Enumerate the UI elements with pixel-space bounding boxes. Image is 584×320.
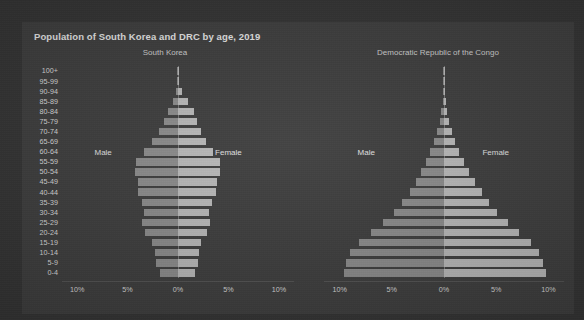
x-axis-line-right: [324, 281, 564, 282]
bar-female-10-14: [178, 249, 199, 256]
x-axis-tick: 0%: [173, 285, 183, 294]
bar-male-75-79: [164, 118, 178, 125]
bar-male-0-4: [160, 269, 178, 276]
bar-female-70-74: [444, 128, 452, 135]
bar-female-30-34: [444, 209, 497, 216]
x-axis-line-left: [62, 281, 294, 282]
bar-female-95-99: [444, 77, 445, 84]
bar-female-65-69: [178, 138, 206, 145]
x-axis-tick: 5%: [491, 285, 501, 294]
age-band-label: 0-4: [48, 269, 58, 276]
bar-female-30-34: [178, 209, 209, 216]
age-band-label: 35-39: [40, 199, 58, 206]
page-title: Population of South Korea and DRC by age…: [34, 31, 260, 42]
bar-female-15-19: [444, 239, 531, 246]
bar-female-20-24: [444, 229, 519, 236]
bar-male-45-49: [416, 178, 444, 185]
bar-male-55-59: [136, 158, 178, 165]
x-axis-tick: 5%: [387, 285, 397, 294]
bar-male-20-24: [371, 229, 444, 236]
bar-male-35-39: [402, 199, 444, 206]
bar-male-10-14: [350, 249, 444, 256]
bar-male-20-24: [145, 229, 178, 236]
x-axis-tick: 0%: [439, 285, 449, 294]
bar-male-80-84: [168, 108, 178, 115]
bar-female-75-79: [444, 118, 449, 125]
bar-female-75-79: [178, 118, 197, 125]
age-band-label: 65-69: [40, 138, 58, 145]
bar-female-95-99: [178, 77, 179, 84]
bar-female-40-44: [444, 188, 482, 195]
panel-title-south-korea: South Korea: [26, 48, 304, 57]
panel-title-drc: Democratic Republic of the Congo: [304, 48, 572, 57]
bar-male-5-9: [156, 259, 178, 266]
x-axis-right: 10%5%0%5%10%: [324, 281, 564, 295]
x-axis-tick: 5%: [223, 285, 233, 294]
bar-female-80-84: [444, 108, 447, 115]
bar-male-40-44: [410, 188, 444, 195]
bar-male-15-19: [152, 239, 178, 246]
bar-female-100+: [178, 67, 179, 74]
bar-male-25-29: [383, 219, 444, 226]
x-axis-tick: 10%: [272, 285, 286, 294]
bar-female-65-69: [444, 138, 455, 145]
bar-male-60-64: [144, 148, 178, 155]
plot-south-korea: [62, 66, 294, 278]
age-band-label: 25-29: [40, 219, 58, 226]
bar-female-80-84: [178, 108, 194, 115]
bar-male-70-74: [437, 128, 444, 135]
male-legend-label-left: Male: [94, 148, 111, 157]
bar-female-45-49: [178, 178, 217, 185]
x-axis-tick: 10%: [332, 285, 346, 294]
bar-female-90-94: [178, 88, 182, 95]
chart-card: Population of South Korea and DRC by age…: [22, 22, 574, 314]
age-band-label: 30-34: [40, 209, 58, 216]
bar-female-40-44: [178, 188, 216, 195]
age-band-label: 80-84: [40, 108, 58, 115]
bar-female-60-64: [178, 148, 213, 155]
x-axis-left: 10%5%0%5%10%: [62, 281, 294, 295]
bar-male-50-54: [135, 168, 178, 175]
bar-female-50-54: [178, 168, 220, 175]
age-band-label: 95-99: [40, 78, 58, 85]
age-band-label: 60-64: [40, 148, 58, 155]
age-band-label: 70-74: [40, 128, 58, 135]
bar-female-45-49: [444, 178, 475, 185]
bar-male-55-59: [426, 158, 444, 165]
female-legend-label-right: Female: [482, 148, 509, 157]
age-band-label: 50-54: [40, 168, 58, 175]
bar-female-15-19: [178, 239, 201, 246]
bar-female-85-89: [444, 98, 446, 105]
bar-female-85-89: [178, 98, 188, 105]
age-band-label: 40-44: [40, 189, 58, 196]
x-axis-tick: 5%: [122, 285, 132, 294]
bar-male-35-39: [142, 199, 178, 206]
plot-drc: [324, 66, 564, 278]
bar-female-100+: [444, 67, 445, 74]
male-legend-label-right: Male: [358, 148, 375, 157]
x-axis-tick: 10%: [70, 285, 84, 294]
bar-male-65-69: [434, 138, 444, 145]
bar-female-5-9: [444, 259, 543, 266]
age-band-label: 20-24: [40, 229, 58, 236]
bar-male-5-9: [346, 259, 444, 266]
bar-male-70-74: [159, 128, 178, 135]
bar-male-10-14: [155, 249, 178, 256]
female-legend-label-left: Female: [215, 148, 242, 157]
bar-female-0-4: [444, 269, 546, 276]
age-band-label: 45-49: [40, 178, 58, 185]
bar-female-35-39: [444, 199, 489, 206]
bar-male-30-34: [144, 209, 178, 216]
bar-female-90-94: [444, 88, 445, 95]
age-band-label: 90-94: [40, 88, 58, 95]
bar-female-25-29: [178, 219, 210, 226]
bar-female-55-59: [178, 158, 220, 165]
bar-male-25-29: [142, 219, 178, 226]
bar-female-25-29: [444, 219, 508, 226]
bar-female-70-74: [178, 128, 201, 135]
bar-male-30-34: [394, 209, 444, 216]
bar-female-50-54: [444, 168, 469, 175]
bar-male-40-44: [138, 188, 178, 195]
age-band-label: 10-14: [40, 249, 58, 256]
bar-female-5-9: [178, 259, 198, 266]
